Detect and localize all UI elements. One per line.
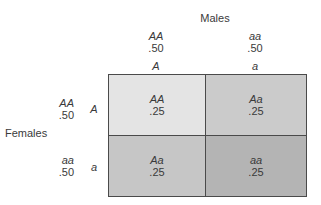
female-genotype-row-0: AA .50 bbox=[40, 97, 74, 121]
female-allele-0: A bbox=[86, 103, 102, 115]
female-frequency: .50 bbox=[40, 109, 74, 121]
cell-frequency: .25 bbox=[149, 105, 164, 117]
cell-genotype: Aa bbox=[249, 93, 262, 105]
female-genotype: aa bbox=[40, 154, 74, 166]
cell-genotype: Aa bbox=[150, 154, 163, 166]
male-allele-1: a bbox=[235, 60, 275, 72]
males-title: Males bbox=[190, 12, 240, 24]
cell-frequency: .25 bbox=[248, 105, 263, 117]
cell-frequency: .25 bbox=[149, 166, 164, 178]
male-genotype: aa bbox=[235, 30, 275, 42]
male-frequency: .50 bbox=[235, 42, 275, 54]
male-genotype: AA bbox=[136, 30, 176, 42]
grid-cell-Aa-top: Aa .25 bbox=[206, 75, 306, 136]
grid-cell-AA: AA .25 bbox=[109, 75, 206, 136]
female-frequency: .50 bbox=[40, 166, 74, 178]
grid-cell-aa: aa .25 bbox=[206, 136, 306, 196]
female-allele-1: a bbox=[86, 161, 102, 173]
male-allele-0: A bbox=[136, 60, 176, 72]
female-genotype-row-1: aa .50 bbox=[40, 154, 74, 178]
females-title: Females bbox=[5, 127, 55, 139]
cell-genotype: aa bbox=[250, 154, 262, 166]
punnett-grid: AA .25 Aa .25 Aa .25 aa .25 bbox=[108, 74, 307, 197]
male-genotype-column-0: AA .50 bbox=[136, 30, 176, 54]
grid-cell-Aa-bottom: Aa .25 bbox=[109, 136, 206, 196]
male-genotype-column-1: aa .50 bbox=[235, 30, 275, 54]
male-frequency: .50 bbox=[136, 42, 176, 54]
female-genotype: AA bbox=[40, 97, 74, 109]
cell-genotype: AA bbox=[150, 93, 165, 105]
cell-frequency: .25 bbox=[248, 166, 263, 178]
